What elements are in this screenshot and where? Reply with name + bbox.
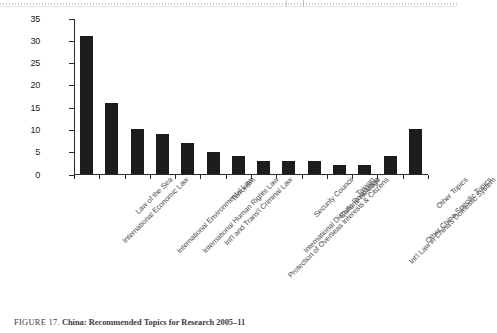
- y-axis-tick-label: 30: [16, 37, 40, 46]
- bar: [207, 152, 220, 174]
- y-axis-tick-label: 25: [16, 59, 40, 68]
- y-axis-tick: [69, 130, 74, 131]
- scan-artifact-line-secondary: [0, 6, 458, 7]
- y-axis-tick-label: 5: [16, 148, 40, 157]
- bar: [333, 165, 346, 174]
- y-axis-tick-label: 0: [16, 171, 40, 180]
- y-axis-tick: [69, 152, 74, 153]
- y-axis-tick: [69, 41, 74, 42]
- figure-caption-text: China: Recommended Topics for Research 2…: [62, 318, 245, 327]
- bar: [257, 161, 270, 174]
- y-axis-tick: [69, 63, 74, 64]
- y-axis-line: [74, 19, 75, 175]
- bar: [282, 161, 295, 174]
- y-axis-tick: [69, 19, 74, 20]
- scan-artifact-line: [0, 3, 458, 5]
- scan-artifact-tick-left: [286, 0, 287, 7]
- y-axis-tick: [69, 108, 74, 109]
- scan-artifact-tick-right: [303, 0, 304, 7]
- bar: [409, 129, 422, 174]
- y-axis-tick-label: 15: [16, 104, 40, 113]
- y-axis-tick-label: 20: [16, 81, 40, 90]
- chart-plot-area: 05101520253035: [74, 19, 428, 175]
- x-axis-category-label: Int'l and Trans'l Criminal Law: [223, 176, 294, 247]
- figure-number: FIGURE 17.: [14, 318, 60, 327]
- figure-caption: FIGURE 17. China: Recommended Topics for…: [14, 318, 444, 328]
- y-axis-tick-label: 35: [16, 15, 40, 24]
- bar: [384, 156, 397, 174]
- bar: [308, 161, 321, 174]
- bar: [232, 156, 245, 174]
- bar: [80, 36, 93, 174]
- bar: [358, 165, 371, 174]
- y-axis-tick-label: 10: [16, 126, 40, 135]
- x-axis-category-labels: International Economic LawLaw of the Sea…: [74, 176, 458, 306]
- y-axis-tick: [69, 85, 74, 86]
- bar: [156, 134, 169, 174]
- bar: [181, 143, 194, 174]
- bar: [105, 103, 118, 174]
- bar: [131, 129, 144, 174]
